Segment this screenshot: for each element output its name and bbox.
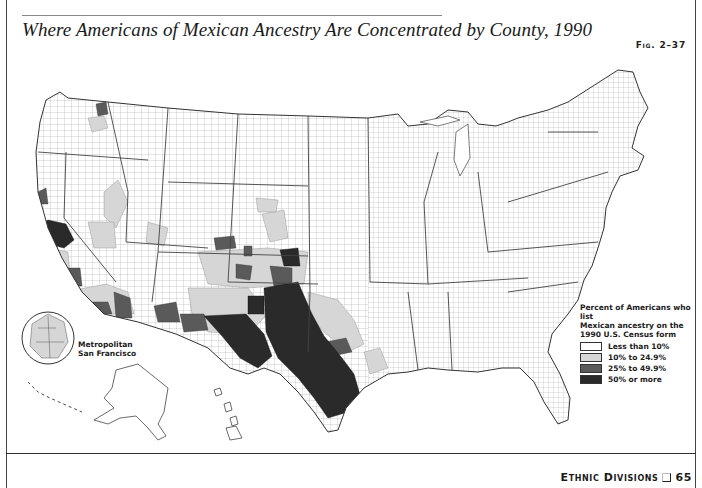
footer-section: Ethnic Divisions <box>561 471 659 484</box>
legend-swatch <box>580 364 602 373</box>
legend-item-10-to-24: 10% to 24.9% <box>580 353 698 362</box>
title-rule <box>22 15 442 16</box>
legend-item-50-plus: 50% or more <box>580 375 698 384</box>
legend-item-25-to-49: 25% to 49.9% <box>580 364 698 373</box>
legend-swatch <box>580 353 602 362</box>
inset-label-line1: Metropolitan <box>78 340 136 349</box>
box-bullet-icon <box>662 473 671 482</box>
page-footer: Ethnic Divisions 65 <box>561 471 692 484</box>
map-title: Where Americans of Mexican Ancestry Are … <box>22 19 592 41</box>
legend-item-less-than-10: Less than 10% <box>580 342 698 351</box>
figure-label: Fig. 2–37 <box>636 40 686 50</box>
hawaii <box>214 388 242 440</box>
map-legend: Percent of Americans who list Mexican an… <box>580 303 698 386</box>
legend-swatch <box>580 342 602 351</box>
footer-rule <box>6 453 696 454</box>
alaska <box>28 364 168 440</box>
san-francisco-inset <box>22 312 74 364</box>
page-number: 65 <box>675 471 692 484</box>
inset-label-line2: San Francisco <box>78 349 136 358</box>
legend-title: Percent of Americans who list Mexican an… <box>580 303 698 339</box>
inset-label: Metropolitan San Francisco <box>78 340 136 358</box>
legend-swatch <box>580 375 602 384</box>
